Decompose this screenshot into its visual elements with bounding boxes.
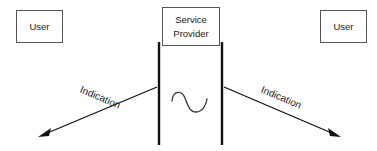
right-indication-arrowhead <box>328 128 341 137</box>
left-user-node: User <box>17 11 63 43</box>
right-user-label: User <box>333 21 353 32</box>
left-indication-label: Indication <box>78 84 122 111</box>
service-provider-label-line1: Service <box>175 14 207 25</box>
sine-wave-squiggle-icon <box>172 92 207 112</box>
service-provider-node: Service Provider <box>163 8 220 46</box>
service-provider-label-line2: Provider <box>173 28 208 39</box>
right-indication-label: Indication <box>259 84 303 111</box>
right-indication-arrow: Indication <box>224 84 341 137</box>
diagram-canvas: User User Service Provider Indication <box>0 0 377 151</box>
left-indication-arrowhead <box>38 128 51 137</box>
right-user-node: User <box>321 11 367 43</box>
left-indication-arrow: Indication <box>38 84 157 137</box>
left-user-label: User <box>29 21 49 32</box>
service-provider-diagram: User User Service Provider Indication <box>0 0 377 151</box>
